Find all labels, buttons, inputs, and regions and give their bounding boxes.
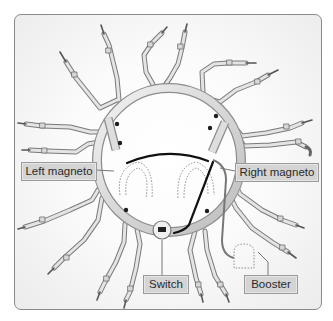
left-magneto [119,162,152,198]
left-magneto-label: Left magneto [21,162,97,181]
ignition-harness-illustration [0,0,333,321]
switch-label: Switch [143,275,189,294]
booster-body [234,244,254,268]
right-magneto-label: Right magneto [235,163,319,182]
right-magneto [178,162,214,198]
booster-label: Booster [244,275,298,294]
switch-body [153,221,171,239]
ignition-harness-ring [97,88,241,232]
